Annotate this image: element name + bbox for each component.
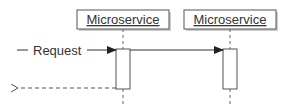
- participant-2-label: Microservice: [194, 12, 267, 27]
- participant-2: Microservice: [184, 10, 278, 31]
- sequence-diagram: Microservice Microservice Request: [0, 0, 288, 106]
- participant-1: Microservice: [77, 10, 171, 31]
- participant-1-label: Microservice: [87, 12, 160, 27]
- request-label: Request: [33, 43, 82, 58]
- activation-box-2: [223, 49, 237, 89]
- message-request: Request: [17, 43, 116, 58]
- activation-box-1: [116, 49, 130, 89]
